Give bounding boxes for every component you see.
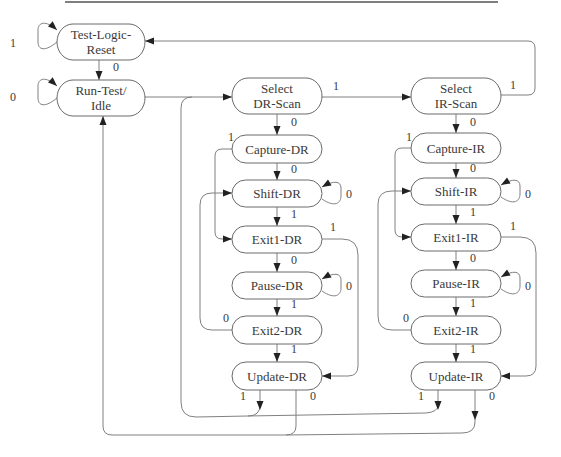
transition-label: 1 xyxy=(291,342,297,356)
transition-label: 0 xyxy=(403,311,409,325)
arrowhead-icon xyxy=(223,94,232,101)
arrowhead-icon xyxy=(274,217,281,226)
transition-label: 0 xyxy=(310,389,316,403)
arrowhead-icon xyxy=(274,263,281,272)
transition-label: 0 xyxy=(489,389,495,403)
state-sir: SelectIR-Scan xyxy=(411,78,501,114)
arrowhead-icon xyxy=(274,171,281,180)
transition-label: 1 xyxy=(10,36,16,50)
transition-label: 0 xyxy=(113,60,119,74)
state-label: Shift-DR xyxy=(253,186,301,201)
state-label: Select xyxy=(440,81,472,96)
state-label: Select xyxy=(261,81,293,96)
transition-label: 1 xyxy=(240,389,246,403)
arrowhead-icon xyxy=(48,77,57,86)
transition-label: 0 xyxy=(470,251,476,265)
transition-label: 1 xyxy=(470,205,476,219)
arrowhead-icon xyxy=(453,215,460,224)
state-label: Capture-DR xyxy=(245,142,309,157)
state-label: IR-Scan xyxy=(435,96,478,111)
state-e2ir: Exit2-IR xyxy=(411,316,501,344)
state-e1dr: Exit1-DR xyxy=(232,226,322,253)
transition-label: 0 xyxy=(470,115,476,129)
state-sdr: SelectDR-Scan xyxy=(232,78,322,114)
state-cdr: Capture-DR xyxy=(232,135,322,163)
state-label: Update-DR xyxy=(247,369,307,384)
state-pdr: Pause-DR xyxy=(232,272,322,299)
state-label: Reset xyxy=(87,42,116,57)
transition-label: 1 xyxy=(330,220,336,234)
state-shir: Shift-IR xyxy=(411,178,501,205)
state-label: DR-Scan xyxy=(253,96,301,111)
arrowhead-icon xyxy=(501,373,510,380)
edge-e2dr-to-shdr xyxy=(200,193,232,330)
transition-label: 1 xyxy=(470,342,476,356)
state-label: Exit1-DR xyxy=(252,232,303,247)
arrowhead-icon xyxy=(223,190,232,197)
arrowhead-icon xyxy=(453,353,460,362)
transition-label: 1 xyxy=(228,130,234,144)
transition-label: 1 xyxy=(291,297,297,311)
state-label: Pause-DR xyxy=(251,278,304,293)
transition-label: 0 xyxy=(470,161,476,175)
transition-label: 1 xyxy=(418,389,424,403)
transition-label: 1 xyxy=(510,219,516,233)
transition-label: 1 xyxy=(510,78,516,92)
arrowhead-icon xyxy=(453,124,460,133)
transition-label: 0 xyxy=(223,311,229,325)
arrowhead-icon xyxy=(453,307,460,316)
arrowhead-icon xyxy=(322,179,332,187)
state-cir: Capture-IR xyxy=(411,133,501,163)
tap-state-diagram: Test-Logic-ResetRun-Test/IdleSelectDR-Sc… xyxy=(0,0,561,457)
state-label: Test-Logic- xyxy=(71,27,131,42)
arrowhead-icon xyxy=(435,401,442,410)
arrowhead-icon xyxy=(402,234,411,241)
state-label: Exit2-IR xyxy=(433,323,479,338)
transition-label: 0 xyxy=(291,253,297,267)
transition-label: 0 xyxy=(10,90,16,104)
state-e2dr: Exit2-DR xyxy=(232,316,322,344)
edge-e1ir-to-uir xyxy=(501,237,536,376)
state-label: Exit2-DR xyxy=(252,323,303,338)
state-e1ir: Exit1-IR xyxy=(411,224,501,251)
arrowhead-icon xyxy=(100,116,107,125)
transition-label: 1 xyxy=(291,207,297,221)
state-udr: Update-DR xyxy=(232,362,322,390)
arrowhead-icon xyxy=(501,177,511,185)
transition-label: 0 xyxy=(525,187,531,201)
arrowhead-icon xyxy=(501,269,511,277)
state-label: Run-Test/ xyxy=(75,83,126,98)
arrowhead-icon xyxy=(453,169,460,178)
arrowhead-icon xyxy=(257,401,264,410)
state-label: Exit1-IR xyxy=(433,230,479,245)
state-nodes: Test-Logic-ResetRun-Test/IdleSelectDR-Sc… xyxy=(57,24,501,390)
arrowhead-icon xyxy=(145,38,154,45)
state-pir: Pause-IR xyxy=(411,270,501,297)
arrowhead-icon xyxy=(96,71,103,80)
state-uir: Update-IR xyxy=(411,362,501,390)
arrowhead-icon xyxy=(274,353,281,362)
arrowhead-icon xyxy=(274,126,281,135)
arrowhead-icon xyxy=(322,271,332,279)
state-label: Pause-IR xyxy=(432,276,480,291)
transition-label: 0 xyxy=(291,162,297,176)
arrowhead-icon xyxy=(322,373,331,380)
arrowhead-icon xyxy=(274,307,281,316)
state-label: Shift-IR xyxy=(435,184,478,199)
transition-label: 0 xyxy=(291,115,297,129)
transition-label: 1 xyxy=(406,130,412,144)
transition-label: 0 xyxy=(346,279,352,293)
edge-uir-to-sdr xyxy=(248,390,438,416)
arrowhead-icon xyxy=(223,236,232,243)
arrowhead-icon xyxy=(402,94,411,101)
arrowhead-icon xyxy=(472,411,479,420)
state-shdr: Shift-DR xyxy=(232,180,322,207)
state-rti: Run-Test/Idle xyxy=(57,80,145,116)
state-label: Capture-IR xyxy=(427,141,486,156)
edge-e1dr-to-udr xyxy=(322,239,358,376)
transition-label: 1 xyxy=(470,296,476,310)
arrowhead-icon xyxy=(453,261,460,270)
state-diagram-svg: Test-Logic-ResetRun-Test/IdleSelectDR-Sc… xyxy=(0,0,561,457)
transition-label: 1 xyxy=(333,79,339,93)
state-label: Update-IR xyxy=(429,369,484,384)
